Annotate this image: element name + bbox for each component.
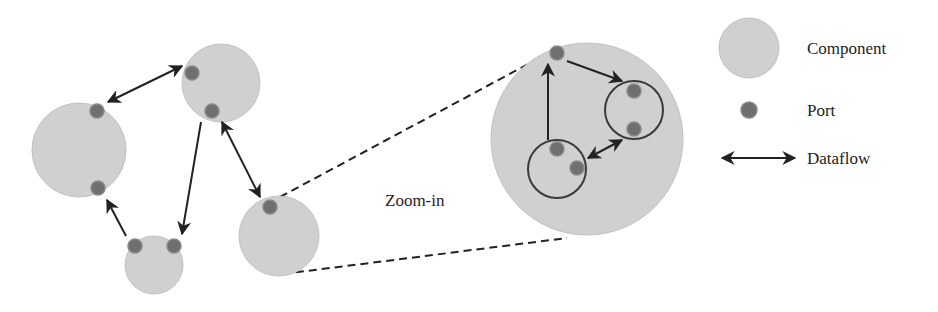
port-icon bbox=[550, 142, 564, 156]
zoom-in-label: Zoom-in bbox=[385, 191, 445, 210]
port-icon bbox=[263, 200, 277, 214]
port-icon bbox=[90, 104, 104, 118]
port-icon bbox=[205, 104, 219, 118]
legend: Component Port Dataflow bbox=[719, 18, 887, 168]
dataflow-arrow-icon bbox=[108, 66, 182, 102]
component-top bbox=[182, 44, 260, 122]
port-icon bbox=[167, 239, 181, 253]
port-icon bbox=[550, 46, 564, 60]
component-right bbox=[239, 196, 319, 276]
port-icon bbox=[91, 181, 105, 195]
port-icon bbox=[627, 84, 641, 98]
port-icon bbox=[128, 239, 142, 253]
port-icon bbox=[570, 161, 584, 175]
legend-port-icon bbox=[741, 102, 757, 118]
dataflow-arrow-icon bbox=[182, 122, 201, 234]
port-icon bbox=[627, 122, 641, 136]
zoom-line-bottom bbox=[283, 238, 567, 274]
legend-port-label: Port bbox=[807, 101, 836, 120]
component-bottom bbox=[125, 236, 183, 294]
legend-component-icon bbox=[719, 18, 779, 78]
port-icon bbox=[185, 66, 199, 80]
component-diagram: Zoom-in Component Port Dataflow bbox=[0, 0, 938, 312]
legend-dataflow-label: Dataflow bbox=[807, 149, 871, 168]
dataflow-arrow-icon bbox=[222, 122, 260, 197]
dataflow-arrow-icon bbox=[107, 200, 126, 236]
component-left bbox=[32, 103, 126, 197]
component-zoomed bbox=[491, 43, 683, 235]
legend-component-label: Component bbox=[807, 39, 887, 58]
